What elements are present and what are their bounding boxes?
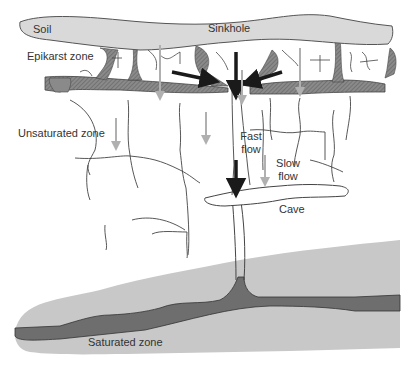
fast-flow-label: Fast flow: [236, 130, 266, 156]
cave: [205, 185, 349, 207]
epikarst-cracks: [80, 50, 378, 76]
epikarst-zone-label: Epikarst zone: [27, 50, 94, 63]
saturated-zone-label: Saturated zone: [88, 336, 163, 349]
sinkhole-label: Sinkhole: [208, 22, 250, 35]
cave-label: Cave: [279, 203, 305, 216]
karst-diagram: Soil Sinkhole Epikarst zone Unsaturated …: [0, 0, 412, 369]
slow-flow-label: Slow flow: [272, 157, 304, 183]
unsaturated-zone-label: Unsaturated zone: [18, 127, 105, 140]
saturated-zone: [15, 240, 400, 354]
epikarst-zone: [45, 40, 396, 94]
fractures: [70, 85, 351, 258]
soil-label: Soil: [33, 23, 51, 36]
